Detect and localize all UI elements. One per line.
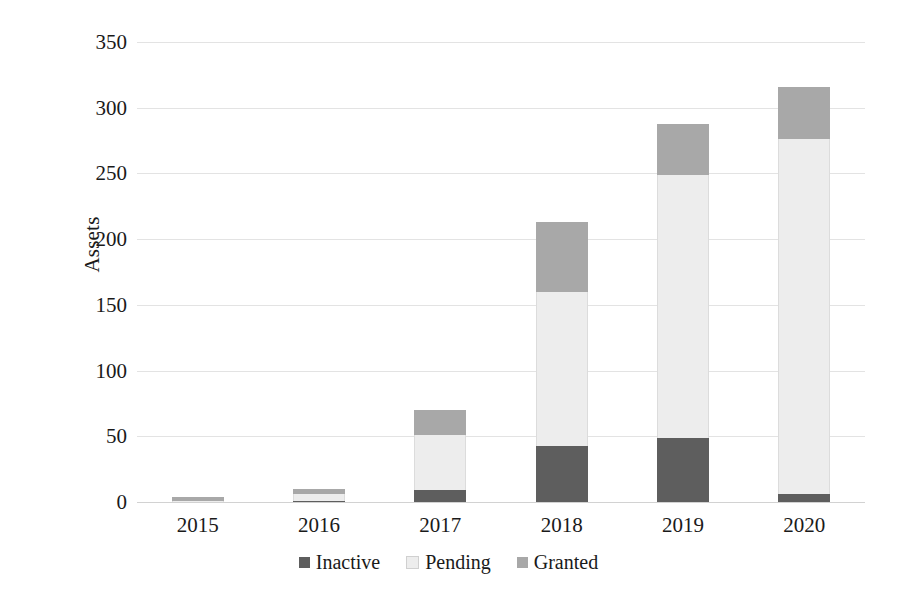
x-tick-label: 2015	[137, 512, 258, 538]
bar-stack	[172, 497, 224, 502]
x-tick-label: 2016	[258, 512, 379, 538]
bar-segment-pending[interactable]	[778, 139, 830, 494]
y-tick-label: 200	[71, 229, 127, 250]
y-axis-tick-labels: 050100150200250300350	[63, 42, 127, 502]
bar-segment-inactive[interactable]	[414, 490, 466, 502]
y-tick-label: 300	[71, 97, 127, 118]
y-tick-label: 100	[71, 360, 127, 381]
bar-segment-inactive[interactable]	[657, 438, 709, 502]
bar-group[interactable]	[414, 42, 466, 502]
bar-group[interactable]	[536, 42, 588, 502]
stacked-bar-chart: Assets 050100150200250300350 20152016201…	[0, 0, 897, 602]
y-tick-label: 350	[71, 32, 127, 53]
x-tick-label: 2020	[744, 512, 865, 538]
bar-segment-granted[interactable]	[536, 222, 588, 292]
x-tick-label: 2019	[622, 512, 743, 538]
bar-stack	[778, 87, 830, 502]
bar-group[interactable]	[657, 42, 709, 502]
bar-segment-pending[interactable]	[172, 501, 224, 502]
bar-segment-inactive[interactable]	[536, 446, 588, 503]
bar-segment-granted[interactable]	[414, 410, 466, 435]
y-tick-label: 250	[71, 163, 127, 184]
legend-swatch-inactive-icon	[299, 557, 310, 568]
bar-segment-inactive[interactable]	[778, 494, 830, 502]
bar-segment-inactive[interactable]	[293, 501, 345, 502]
x-tick-label: 2017	[380, 512, 501, 538]
bar-group[interactable]	[172, 42, 224, 502]
bar-stack	[536, 222, 588, 502]
y-tick-label: 50	[71, 426, 127, 447]
legend-label: Pending	[425, 552, 491, 572]
legend-swatch-granted-icon	[517, 557, 528, 568]
bar-group[interactable]	[293, 42, 345, 502]
bar-group[interactable]	[778, 42, 830, 502]
legend-item-pending[interactable]: Pending	[406, 552, 491, 572]
legend-label: Inactive	[316, 552, 380, 572]
y-tick-label: 150	[71, 294, 127, 315]
bar-segment-pending[interactable]	[657, 175, 709, 438]
bar-stack	[414, 410, 466, 502]
bar-segment-pending[interactable]	[536, 292, 588, 446]
axis-baseline	[137, 502, 865, 503]
chart-legend: InactivePendingGranted	[0, 552, 897, 572]
bar-segment-pending[interactable]	[414, 435, 466, 490]
bar-stack	[293, 489, 345, 502]
bars-layer	[137, 42, 865, 502]
y-tick-label: 0	[71, 492, 127, 513]
bar-segment-granted[interactable]	[778, 87, 830, 140]
x-tick-label: 2018	[501, 512, 622, 538]
bar-stack	[657, 124, 709, 502]
legend-item-inactive[interactable]: Inactive	[299, 552, 380, 572]
x-axis-tick-labels: 201520162017201820192020	[137, 512, 865, 542]
bar-segment-granted[interactable]	[657, 124, 709, 175]
legend-item-granted[interactable]: Granted	[517, 552, 598, 572]
legend-label: Granted	[534, 552, 598, 572]
legend-swatch-pending-icon	[406, 556, 419, 569]
